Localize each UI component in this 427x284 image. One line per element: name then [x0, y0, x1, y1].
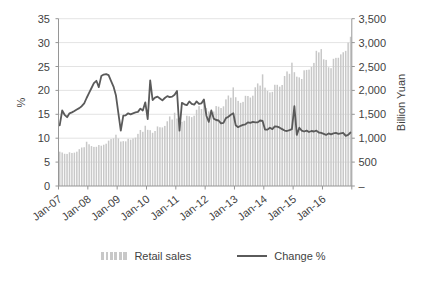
bar-month-115: [340, 54, 342, 186]
bar-month-63: [213, 112, 215, 186]
bar-month-107: [320, 49, 322, 186]
bar-month-9: [81, 148, 83, 186]
bar-month-81: [257, 83, 259, 186]
bar-month-6: [74, 153, 76, 186]
x-axis-tick-label-Jan-09: Jan-09: [88, 193, 122, 223]
x-axis-tick-label-Jan-14: Jan-14: [235, 193, 269, 223]
x-axis-tick-label-Jan-12: Jan-12: [176, 193, 210, 223]
bar-month-53: [189, 116, 191, 186]
left-axis-tick-label-0: 0: [44, 180, 50, 192]
bar-month-3: [66, 154, 68, 186]
bar-month-11: [86, 142, 88, 186]
bar-month-91: [281, 85, 283, 186]
bar-month-117: [345, 51, 347, 186]
bar-month-70: [230, 98, 232, 186]
bar-month-88: [274, 85, 276, 186]
right-axis-tick-label-500: 500: [359, 156, 377, 168]
x-axis-tick-label-Jan-15: Jan-15: [264, 193, 298, 223]
bar-month-116: [342, 52, 344, 186]
bar-month-35: [145, 126, 147, 186]
bar-month-33: [140, 130, 142, 186]
bar-month-19: [105, 144, 107, 186]
left-axis-tick-label-5: 5: [44, 156, 50, 168]
right-axis-tick-label-2000: 2,000: [359, 84, 387, 96]
bar-month-86: [269, 92, 271, 186]
bar-month-42: [162, 127, 164, 186]
bar-month-108: [323, 59, 325, 186]
bar-month-72: [235, 97, 237, 186]
bar-month-85: [267, 91, 269, 186]
left-axis-tick-label-35: 35: [38, 13, 50, 25]
bar-month-45: [169, 116, 171, 186]
bar-month-103: [311, 67, 313, 186]
bar-month-16: [98, 145, 100, 186]
bar-month-14: [93, 147, 95, 186]
bar-month-90: [279, 87, 281, 186]
bar-month-104: [313, 63, 315, 186]
bar-month-100: [303, 70, 305, 186]
bar-month-93: [286, 71, 288, 186]
bar-month-59: [203, 99, 205, 186]
bar-month-7: [76, 152, 78, 186]
left-axis-tick-label-15: 15: [38, 108, 50, 120]
bar-month-102: [308, 70, 310, 186]
bar-month-83: [262, 74, 264, 186]
gridlines: [59, 19, 352, 162]
bar-month-67: [223, 106, 225, 186]
bar-month-87: [272, 92, 274, 186]
bar-month-109: [325, 60, 327, 186]
right-axis-tick-label-3000: 3,000: [359, 37, 387, 49]
bar-month-96: [294, 72, 296, 186]
bar-month-17: [101, 146, 103, 186]
x-axis-tick-label-Jan-10: Jan-10: [118, 193, 152, 223]
bar-month-10: [83, 147, 85, 186]
bar-month-111: [330, 68, 332, 186]
bar-month-84: [264, 88, 266, 186]
bar-month-68: [225, 99, 227, 186]
bar-month-28: [127, 139, 129, 186]
bar-month-47: [174, 113, 176, 186]
bar-month-118: [347, 43, 349, 186]
right-axis-tick-label-1500: 1,500: [359, 108, 387, 120]
bar-month-69: [228, 96, 230, 186]
right-axis-tick-label-2500: 2,500: [359, 61, 387, 73]
bar-month-76: [245, 96, 247, 186]
bar-month-119: [350, 37, 352, 186]
bar-month-18: [103, 145, 105, 186]
bar-month-26: [123, 141, 125, 186]
bar-month-112: [333, 59, 335, 186]
bar-month-32: [137, 134, 139, 186]
bar-month-105: [316, 51, 318, 186]
bar-month-52: [186, 116, 188, 186]
legend-item-retail-sales: Retail sales: [101, 250, 191, 262]
line-series-swatch-icon: [237, 255, 267, 257]
bar-month-40: [157, 126, 159, 186]
bar-month-5: [71, 153, 73, 186]
bar-month-36: [147, 130, 149, 186]
bar-month-12: [88, 144, 90, 186]
left-axis-title: %: [15, 97, 27, 107]
bar-month-43: [164, 126, 166, 186]
right-axis-tick-label-1000: 1,000: [359, 132, 387, 144]
bar-month-110: [328, 67, 330, 186]
legend: Retail sales Change %: [0, 250, 427, 262]
legend-item-change-percent: Change %: [237, 250, 325, 262]
bar-month-113: [335, 58, 337, 186]
bar-month-15: [96, 147, 98, 186]
bar-month-23: [115, 135, 117, 186]
bar-month-20: [108, 141, 110, 186]
bar-month-58: [201, 109, 203, 186]
bar-month-34: [142, 132, 144, 186]
left-axis-tick-label-25: 25: [38, 61, 50, 73]
bar-month-1: [61, 152, 63, 186]
bar-month-8: [79, 149, 81, 186]
bar-month-44: [167, 121, 169, 186]
bar-series-swatch-icon: [101, 252, 127, 260]
bar-month-22: [113, 138, 115, 186]
left-axis-tick-label-20: 20: [38, 84, 50, 96]
bar-month-55: [193, 116, 195, 186]
bar-month-39: [154, 131, 156, 186]
bar-month-71: [233, 87, 235, 186]
bar-month-89: [277, 85, 279, 186]
bar-month-57: [198, 106, 200, 186]
